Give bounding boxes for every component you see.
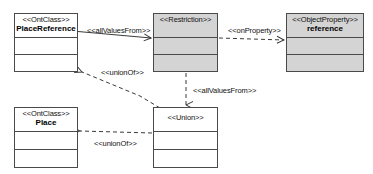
class-operations-compartment [287,55,363,71]
class-header: <<Restriction>> [154,14,217,38]
edge-on-property-restriction-reference [219,38,284,40]
class-box-place-reference[interactable]: <<OntClass>> PlaceReference [14,13,78,72]
class-operations-compartment [15,55,77,71]
edge-label-union-of-lower: <<unionOf>> [94,139,137,148]
class-header: <<OntClass>> PlaceReference [15,14,77,38]
uml-class-diagram: <<OntClass>> PlaceReference <<Restrictio… [0,0,373,174]
class-box-restriction[interactable]: <<Restriction>> [153,13,218,72]
class-stereotype: <<OntClass>> [15,110,77,118]
class-attributes-compartment [15,38,77,55]
edge-union-of-union-place [80,131,152,133]
edge-label-on-property: <<onProperty>> [228,26,281,35]
class-box-object-property-reference[interactable]: <<ObjectProperty>> reference [286,13,364,72]
class-box-place[interactable]: <<OntClass>> Place [14,107,78,168]
class-operations-compartment [154,150,217,167]
class-stereotype: <<Restriction>> [154,16,217,24]
class-operations-compartment [154,55,217,71]
class-name: reference [287,25,363,33]
class-stereotype: <<ObjectProperty>> [287,16,363,24]
class-stereotype: <<Union>> [154,114,217,122]
edge-label-all-values-from-lower: <<allValuesFrom>> [193,86,256,95]
class-attributes-compartment [15,132,77,150]
class-attributes-compartment [154,38,217,55]
class-attributes-compartment [287,38,363,55]
edge-label-all-values-from-upper: <<allValuesFrom>> [87,26,150,35]
class-stereotype: <<OntClass>> [15,16,77,24]
class-header: <<Union>> [154,108,217,132]
class-operations-compartment [15,150,77,167]
class-attributes-compartment [154,132,217,150]
edge-union-of-union-place-reference [82,72,160,108]
edge-label-union-of-upper: <<unionOf>> [101,68,144,77]
class-header: <<OntClass>> Place [15,108,77,132]
class-name: PlaceReference [15,25,77,33]
class-box-union[interactable]: <<Union>> [153,107,218,168]
class-header: <<ObjectProperty>> reference [287,14,363,38]
class-name: Place [15,119,77,127]
